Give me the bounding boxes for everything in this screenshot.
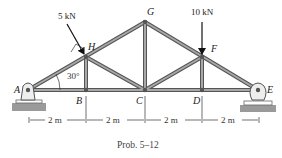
svg-text:E: E xyxy=(266,84,273,95)
svg-text:A: A xyxy=(13,84,21,95)
figure-caption: Prob. 5–12 xyxy=(117,140,159,150)
truss-diagram: 5 kN 10 kN 30° A B C D E H G F xyxy=(0,0,282,158)
svg-text:C: C xyxy=(136,95,143,106)
svg-text:B: B xyxy=(76,95,82,106)
svg-text:5 kN: 5 kN xyxy=(58,11,76,21)
load-5kn: 5 kN xyxy=(58,11,84,54)
svg-text:30°: 30° xyxy=(67,71,80,81)
svg-text:D: D xyxy=(192,95,201,106)
svg-text:2 m: 2 m xyxy=(48,115,62,125)
svg-text:H: H xyxy=(87,41,96,52)
svg-text:F: F xyxy=(210,43,218,54)
truss-members xyxy=(28,22,258,90)
svg-text:2 m: 2 m xyxy=(221,115,235,125)
svg-text:2 m: 2 m xyxy=(164,115,178,125)
svg-text:G: G xyxy=(147,6,154,17)
svg-text:10 kN: 10 kN xyxy=(191,7,214,17)
svg-text:2 m: 2 m xyxy=(106,115,120,125)
